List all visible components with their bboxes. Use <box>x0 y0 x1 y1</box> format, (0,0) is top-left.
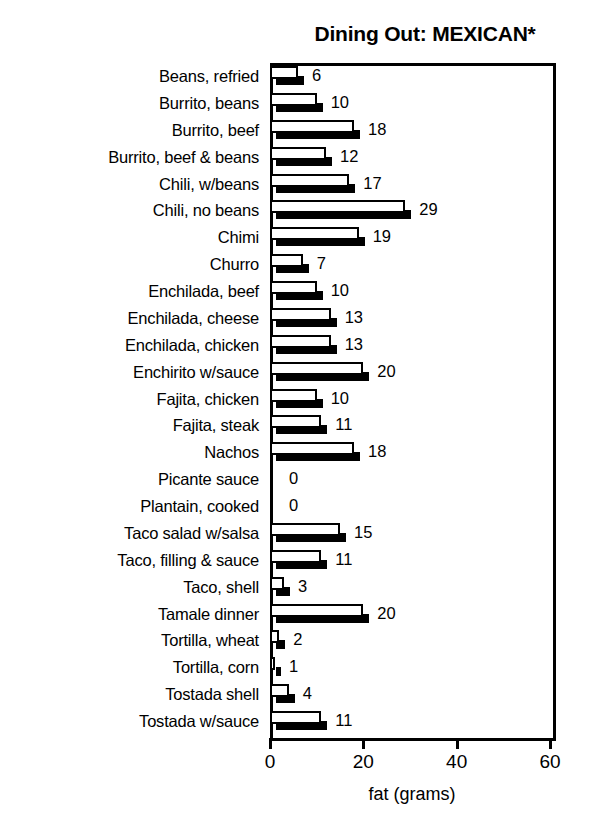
x-tick-label: 0 <box>240 752 300 772</box>
bar-value-label: 20 <box>377 605 395 621</box>
bar[interactable] <box>270 415 321 428</box>
bar-value-label: 18 <box>368 443 386 459</box>
bar-row: 7 <box>270 251 550 279</box>
bar-value-label: 0 <box>289 497 298 513</box>
category-label: Plantain, cooked <box>0 497 259 515</box>
x-tick <box>362 738 365 749</box>
category-label: Tortilla, corn <box>0 658 259 676</box>
bar[interactable] <box>270 630 279 643</box>
bar[interactable] <box>270 227 359 240</box>
bar-row: 3 <box>270 574 550 602</box>
bars-layer: 6101812172919710131320101118001511320214… <box>270 63 550 735</box>
category-label: Taco, filling & sauce <box>0 551 259 569</box>
bar-value-label: 10 <box>331 282 349 298</box>
bar-value-label: 15 <box>354 524 372 540</box>
bar-row: 19 <box>270 224 550 252</box>
category-label: Nachos <box>0 443 259 461</box>
category-label: Enchilada, beef <box>0 282 259 300</box>
category-label: Fajita, steak <box>0 416 259 434</box>
x-tick-label: 40 <box>427 752 487 772</box>
bar-row: 11 <box>270 412 550 440</box>
bar-row: 0 <box>270 493 550 521</box>
bar[interactable] <box>270 147 326 160</box>
bar-value-label: 11 <box>335 712 352 728</box>
bar-value-label: 18 <box>368 121 386 137</box>
bar[interactable] <box>270 120 354 133</box>
bar-shadow <box>276 667 281 676</box>
bar[interactable] <box>270 93 317 106</box>
category-label: Enchilada, cheese <box>0 309 259 327</box>
bar[interactable] <box>270 200 405 213</box>
x-tick-label: 60 <box>520 752 580 772</box>
category-label: Fajita, chicken <box>0 390 259 408</box>
bar-value-label: 2 <box>293 631 302 647</box>
category-label: Burrito, beans <box>0 94 259 112</box>
bar[interactable] <box>270 254 303 267</box>
category-label: Chimi <box>0 228 259 246</box>
chart-container: Dining Out: MEXICAN* Beans, refriedBurri… <box>0 0 592 837</box>
bar[interactable] <box>270 523 340 536</box>
bar-value-label: 0 <box>289 470 298 486</box>
bar-value-label: 12 <box>340 148 358 164</box>
category-label: Tortilla, wheat <box>0 631 259 649</box>
bar[interactable] <box>270 684 289 697</box>
x-axis-tick-labels: 0204060 <box>0 752 592 776</box>
bar-row: 1 <box>270 654 550 682</box>
bar-value-label: 10 <box>331 390 349 406</box>
bar-value-label: 19 <box>373 228 391 244</box>
bar-value-label: 13 <box>345 309 363 325</box>
bar-row: 6 <box>270 63 550 91</box>
bar-value-label: 7 <box>317 255 326 271</box>
category-label: Picante sauce <box>0 470 259 488</box>
bar[interactable] <box>270 389 317 402</box>
bar-value-label: 6 <box>312 67 321 83</box>
x-tick <box>269 738 272 749</box>
x-tick-label: 20 <box>333 752 393 772</box>
bar-row: 10 <box>270 278 550 306</box>
bar-row: 11 <box>270 708 550 736</box>
bar[interactable] <box>270 657 275 670</box>
category-label: Burrito, beef & beans <box>0 148 259 166</box>
bar[interactable] <box>270 442 354 455</box>
bar-row: 15 <box>270 520 550 548</box>
bar-row: 11 <box>270 547 550 575</box>
bar-row: 18 <box>270 439 550 467</box>
bar[interactable] <box>270 308 331 321</box>
bar-row: 13 <box>270 332 550 360</box>
bar-row: 20 <box>270 601 550 629</box>
x-axis-ticks <box>270 738 554 750</box>
bar-value-label: 11 <box>335 416 352 432</box>
bar[interactable] <box>270 577 284 590</box>
bar-row: 4 <box>270 681 550 709</box>
bar-value-label: 17 <box>363 175 381 191</box>
bar-value-label: 4 <box>303 685 312 701</box>
bar[interactable] <box>270 711 321 724</box>
category-label: Enchirito w/sauce <box>0 363 259 381</box>
category-label: Taco salad w/salsa <box>0 524 259 542</box>
bar-row: 20 <box>270 359 550 387</box>
bar[interactable] <box>270 550 321 563</box>
bar[interactable] <box>270 362 363 375</box>
bar[interactable] <box>270 335 331 348</box>
category-label: Tostada w/sauce <box>0 712 259 730</box>
bar-value-label: 11 <box>335 551 352 567</box>
bar-row: 2 <box>270 627 550 655</box>
category-label: Tostada shell <box>0 685 259 703</box>
bar-value-label: 10 <box>331 94 349 110</box>
category-label: Burrito, beef <box>0 121 259 139</box>
bar-row: 13 <box>270 305 550 333</box>
category-axis-labels: Beans, refriedBurrito, beansBurrito, bee… <box>0 63 265 735</box>
bar[interactable] <box>270 604 363 617</box>
bar-value-label: 20 <box>377 363 395 379</box>
x-tick <box>456 738 459 749</box>
bar[interactable] <box>270 174 349 187</box>
bar-row: 10 <box>270 386 550 414</box>
bar-row: 29 <box>270 197 550 225</box>
bar-value-label: 1 <box>289 658 298 674</box>
bar[interactable] <box>270 281 317 294</box>
category-label: Taco, shell <box>0 578 259 596</box>
bar[interactable] <box>270 66 298 79</box>
category-label: Chili, w/beans <box>0 175 259 193</box>
bar-row: 12 <box>270 144 550 172</box>
category-label: Enchilada, chicken <box>0 336 259 354</box>
